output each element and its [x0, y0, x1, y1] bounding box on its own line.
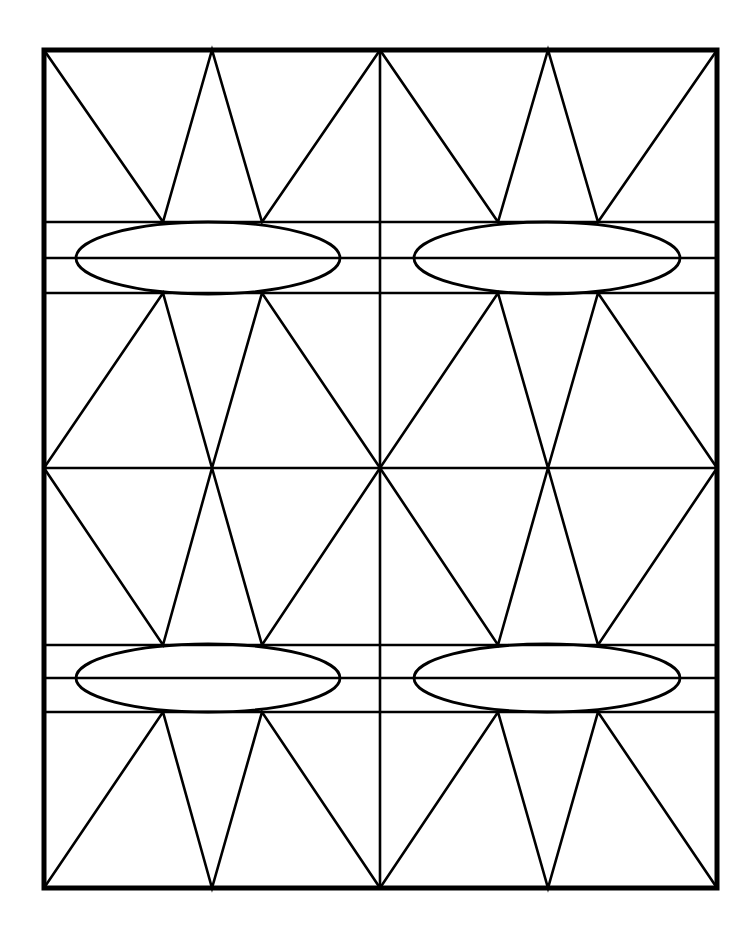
- figure-root: [0, 0, 750, 929]
- geometric-pattern-canvas: [0, 0, 750, 929]
- canvas-background: [0, 0, 750, 929]
